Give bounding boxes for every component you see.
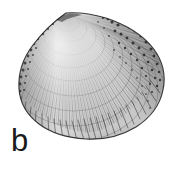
figure-label: b — [11, 124, 28, 158]
figure-container: b — [0, 0, 176, 169]
